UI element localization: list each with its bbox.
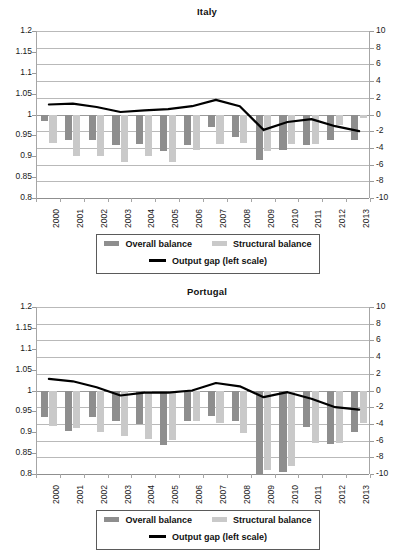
y-axis-tick-right: -10 — [376, 469, 406, 478]
x-axis-label: 2004 — [147, 485, 156, 504]
chart-panel-portugal: Portugal Overall balanceStructural balan… — [0, 281, 414, 556]
x-axis-label: 2005 — [171, 209, 180, 228]
y-tick-mark-right — [370, 64, 374, 65]
x-tick-mark — [131, 474, 132, 478]
x-tick-mark — [322, 474, 323, 478]
y-tick-mark-right — [370, 407, 374, 408]
y-tick-mark-left — [32, 156, 36, 157]
y-tick-mark-right — [370, 391, 374, 392]
x-axis-label: 2013 — [362, 485, 371, 504]
y-tick-mark-left — [32, 391, 36, 392]
x-tick-mark — [60, 474, 61, 478]
y-axis-tick-right: -10 — [376, 193, 406, 202]
x-tick-mark — [108, 198, 109, 202]
y-tick-mark-right — [370, 441, 374, 442]
legend-row: Overall balanceStructural balance — [97, 511, 319, 528]
legend-label: Structural balance — [233, 515, 312, 525]
y-tick-mark-right — [370, 181, 374, 182]
y-axis-tick-right: 6 — [376, 335, 406, 344]
legend-label: Output gap (left scale) — [172, 256, 267, 266]
y-axis-tick-left: 0.9 — [2, 427, 32, 436]
x-tick-mark — [155, 474, 156, 478]
x-tick-mark — [36, 474, 37, 478]
y-tick-mark-right — [370, 424, 374, 425]
x-tick-mark — [346, 474, 347, 478]
x-axis-label: 2003 — [124, 485, 133, 504]
y-tick-mark-right — [370, 374, 374, 375]
chart-panel-italy: Italy Overall balanceStructural balanceO… — [0, 0, 414, 281]
x-tick-mark — [251, 474, 252, 478]
y-tick-mark-right — [370, 324, 374, 325]
x-axis-label: 2007 — [219, 209, 228, 228]
legend-item-overall[interactable]: Overall balance — [104, 515, 192, 525]
bar-swatch-icon — [104, 517, 119, 522]
y-tick-mark-left — [32, 52, 36, 53]
y-axis-tick-left: 1.15 — [2, 323, 32, 332]
x-axis-label: 2000 — [52, 209, 61, 228]
y-axis-tick-right: 4 — [376, 76, 406, 85]
line-swatch-icon — [149, 535, 166, 538]
x-axis-label: 2002 — [100, 209, 109, 228]
y-axis-tick-left: 1.1 — [2, 68, 32, 77]
y-tick-mark-left — [32, 94, 36, 95]
x-tick-mark — [131, 198, 132, 202]
y-axis-tick-right: 8 — [376, 43, 406, 52]
y-axis-tick-left: 1 — [2, 386, 32, 395]
y-axis-tick-right: -8 — [376, 176, 406, 185]
y-tick-mark-left — [32, 411, 36, 412]
x-tick-mark — [36, 198, 37, 202]
x-tick-mark — [227, 474, 228, 478]
y-axis-tick-left: 1.05 — [2, 89, 32, 98]
x-axis-label: 2006 — [195, 485, 204, 504]
legend-item-line[interactable]: Output gap (left scale) — [149, 532, 267, 542]
legend-item-structural[interactable]: Structural balance — [212, 239, 312, 249]
y-tick-mark-left — [32, 370, 36, 371]
x-tick-mark — [108, 474, 109, 478]
y-axis-tick-right: -2 — [376, 126, 406, 135]
chart-title-italy: Italy — [0, 6, 414, 17]
y-axis-tick-right: -6 — [376, 160, 406, 169]
legend-row: Output gap (left scale) — [97, 528, 319, 545]
y-tick-mark-right — [370, 307, 374, 308]
x-tick-mark — [370, 198, 371, 202]
x-axis-label: 2011 — [314, 210, 323, 228]
x-axis-label: 2006 — [195, 209, 204, 228]
x-axis-label: 2009 — [267, 209, 276, 228]
x-axis-label: 2010 — [291, 209, 300, 228]
y-axis-tick-left: 1.2 — [2, 302, 32, 311]
y-tick-mark-left — [32, 453, 36, 454]
bar-swatch-icon — [212, 517, 227, 522]
legend-item-overall[interactable]: Overall balance — [104, 239, 192, 249]
y-axis-tick-right: 6 — [376, 59, 406, 68]
y-tick-mark-right — [370, 81, 374, 82]
x-tick-mark — [155, 198, 156, 202]
x-tick-mark — [179, 474, 180, 478]
x-axis-label: 2012 — [338, 485, 347, 504]
legend-italy: Overall balanceStructural balanceOutput … — [96, 234, 320, 274]
legend-label: Overall balance — [125, 515, 192, 525]
x-axis-label: 2004 — [147, 209, 156, 228]
y-tick-mark-right — [370, 165, 374, 166]
x-tick-mark — [298, 474, 299, 478]
x-tick-mark — [84, 474, 85, 478]
x-tick-mark — [203, 474, 204, 478]
y-axis-tick-right: 2 — [376, 93, 406, 102]
x-axis-label: 2000 — [52, 485, 61, 504]
y-tick-mark-right — [370, 98, 374, 99]
legend-item-line[interactable]: Output gap (left scale) — [149, 256, 267, 266]
x-axis-label: 2011 — [314, 486, 323, 504]
legend-label: Overall balance — [125, 239, 192, 249]
line-swatch-icon — [149, 259, 166, 262]
y-axis-tick-left: 0.85 — [2, 172, 32, 181]
x-tick-mark — [275, 198, 276, 202]
y-axis-tick-right: 4 — [376, 352, 406, 361]
y-tick-mark-right — [370, 48, 374, 49]
legend-item-structural[interactable]: Structural balance — [212, 515, 312, 525]
y-tick-mark-left — [32, 177, 36, 178]
legend-portugal: Overall balanceStructural balanceOutput … — [96, 510, 320, 550]
y-tick-mark-left — [32, 328, 36, 329]
plot-area-portugal — [36, 307, 370, 474]
y-tick-mark-left — [32, 349, 36, 350]
y-axis-tick-left: 1.15 — [2, 47, 32, 56]
y-tick-mark-left — [32, 115, 36, 116]
